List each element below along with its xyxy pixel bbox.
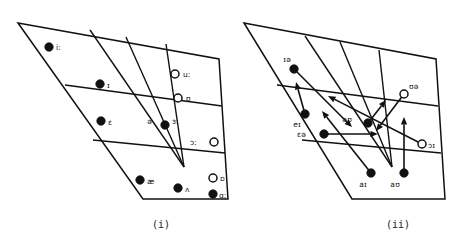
vowel-label: ɜː (172, 117, 179, 126)
vowel-marker-filled (97, 117, 105, 125)
vowel-label: əʊ (342, 115, 352, 124)
vowel-marker-open (210, 138, 218, 146)
vowel-marker-filled (45, 43, 53, 51)
vowel-marker-filled (400, 169, 408, 177)
vowel-label: ɑː (219, 191, 227, 200)
vowel-marker-filled (96, 80, 104, 88)
height-line-mid-i (93, 140, 225, 153)
caption-panel-i: (i) (152, 219, 170, 230)
vowel-marker-open (209, 174, 217, 182)
backness-line-2-i (126, 37, 184, 167)
vowel-label: iː (56, 43, 61, 52)
caption-panel-ii: (ii) (386, 219, 410, 230)
vowel-marker-filled (174, 184, 182, 192)
vowel-marker-filled (290, 65, 298, 73)
diphthong-arrow-head (295, 82, 301, 90)
diphthong-arrow-head (401, 117, 407, 125)
vowel-label: aʊ (390, 180, 400, 189)
vowel-label: ʌ (185, 185, 190, 194)
vowel-marker-open (400, 90, 408, 98)
vowel-marker-filled (301, 110, 309, 118)
height-line-close-i (65, 85, 222, 106)
vowel-label: ʊə (409, 82, 419, 91)
panel-diphthongs: ɪəeɪɛəəʊaɪaʊʊəɔɪ (244, 23, 445, 199)
vowel-label: uː (183, 70, 191, 79)
vowel-label: aɪ (359, 180, 367, 189)
vowel-label: ɛ (108, 118, 112, 127)
vowel-quadrilateral-outline-ii (244, 23, 445, 199)
vowel-charts-svg: iːɪɛəɜːæʌɑːuːʊɔːɒ ɪəeɪɛəəʊaɪaʊʊəɔɪ (i) (… (0, 0, 464, 239)
vowel-label: ɔɪ (428, 141, 435, 150)
vowel-label: ɪə (283, 55, 291, 64)
vowel-chart-figure: iːɪɛəɜːæʌɑːuːʊɔːɒ ɪəeɪɛəəʊaɪaʊʊəɔɪ (i) (… (0, 0, 464, 239)
vowel-marker-filled (320, 130, 328, 138)
vowel-label: eɪ (293, 120, 301, 129)
vowel-label: ʊ (186, 94, 191, 103)
vowel-label: ɔː (190, 138, 197, 147)
vowel-marker-filled (161, 121, 169, 129)
vowel-marker-filled (364, 119, 372, 127)
vowel-label: æ (147, 177, 155, 186)
vowel-marker-filled (367, 169, 375, 177)
vowel-label: ɪ (107, 81, 110, 90)
vowel-marker-open (418, 140, 426, 148)
vowel-marker-filled (136, 176, 144, 184)
vowel-label: ə (147, 117, 152, 126)
vowel-label: ɒ (220, 174, 225, 183)
vowel-marker-open (171, 70, 179, 78)
vowel-points-group-i: iːɪɛəɜːæʌɑːuːʊɔːɒ (45, 43, 227, 200)
panel-monophthongs: iːɪɛəɜːæʌɑːuːʊɔːɒ (18, 23, 228, 200)
vowel-label: ɛə (297, 130, 306, 139)
vowel-points-group-ii: ɪəeɪɛəəʊaɪaʊʊəɔɪ (283, 55, 435, 189)
vowel-marker-filled (209, 190, 217, 198)
vowel-marker-open (174, 94, 182, 102)
